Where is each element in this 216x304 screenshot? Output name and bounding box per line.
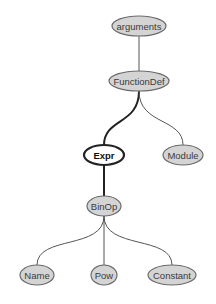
node-name[interactable]: Name [20,265,54,285]
node-pow[interactable]: Pow [91,265,117,285]
node-expr[interactable]: Expr [84,145,124,165]
edge-binop-name [37,216,104,265]
edge-functiondef-module [139,91,183,145]
node-constant[interactable]: Constant [148,265,196,285]
node-module[interactable]: Module [163,145,203,165]
node-label: arguments [117,21,162,32]
node-label: Expr [93,150,114,161]
node-label: Constant [153,270,191,281]
tree-diagram: arguments FunctionDef Expr Module BinOp … [0,0,216,304]
node-label: Pow [95,270,114,281]
node-binop[interactable]: BinOp [87,196,121,216]
node-label: Module [167,150,198,161]
node-arguments[interactable]: arguments [112,16,166,36]
node-functiondef[interactable]: FunctionDef [109,71,169,91]
edge-binop-constant [104,216,172,265]
node-label: FunctionDef [113,76,165,87]
edge-functiondef-expr [104,91,139,145]
node-label: Name [24,270,49,281]
node-label: BinOp [91,201,117,212]
